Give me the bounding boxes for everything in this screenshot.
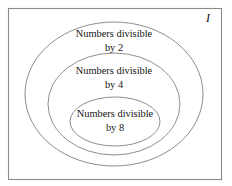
set-label-divisible-by-8-line1: Numbers divisible — [77, 108, 154, 119]
set-label-divisible-by-8-line2: by 8 — [106, 122, 124, 133]
set-label-divisible-by-4-line1: Numbers divisible — [76, 65, 153, 76]
set-label-divisible-by-2-line1: Numbers divisible — [76, 28, 153, 39]
diagram-canvas: I Numbers divisible by 2 Numbers divisib… — [0, 0, 232, 186]
set-label-divisible-by-4-line2: by 4 — [105, 79, 124, 90]
set-label-divisible-by-2-line2: by 2 — [105, 42, 123, 53]
euler-diagram: I Numbers divisible by 2 Numbers divisib… — [0, 0, 232, 186]
